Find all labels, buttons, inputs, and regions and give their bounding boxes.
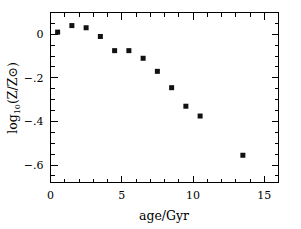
y-axis-title: log10(Z/Z⊙) <box>5 62 22 134</box>
y-axis-title-rest: (Z/Z⊙) <box>5 62 20 104</box>
data-point <box>141 56 146 61</box>
x-tick-label: 10 <box>186 189 200 202</box>
figure-background <box>0 0 301 229</box>
y-tick-label: 0 <box>37 28 44 41</box>
svg-text:log10(Z/Z⊙): log10(Z/Z⊙) <box>5 62 22 134</box>
data-point <box>169 85 174 90</box>
data-point <box>98 34 103 39</box>
data-point <box>112 48 117 53</box>
y-tick-label: −.6 <box>24 159 44 172</box>
y-tick-label: −.4 <box>24 115 44 128</box>
y-tick-label: −.2 <box>24 72 44 85</box>
data-point <box>69 23 74 28</box>
y-axis-title-subscript: 10 <box>13 104 22 114</box>
data-point <box>126 48 131 53</box>
x-tick-label: 0 <box>47 189 54 202</box>
scatter-plot: 051015 0−.2−.4−.6 age/Gyr log10(Z/Z⊙) <box>0 0 301 229</box>
x-tick-label: 15 <box>257 189 271 202</box>
chart-figure: 051015 0−.2−.4−.6 age/Gyr log10(Z/Z⊙) <box>0 0 301 229</box>
x-tick-label: 5 <box>118 189 125 202</box>
data-point <box>240 153 245 158</box>
x-axis-title: age/Gyr <box>139 208 189 223</box>
data-point <box>155 69 160 74</box>
data-point <box>198 114 203 119</box>
data-point <box>55 30 60 35</box>
y-axis-title-log: log <box>5 114 20 134</box>
data-point <box>84 25 89 30</box>
data-point <box>183 104 188 109</box>
